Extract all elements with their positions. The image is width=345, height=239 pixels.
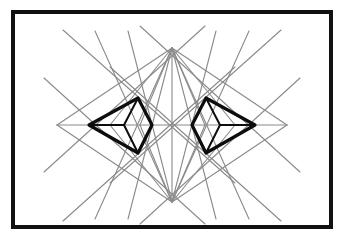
figure-canvas [0,0,345,239]
geometric-figure-svg [0,0,345,239]
